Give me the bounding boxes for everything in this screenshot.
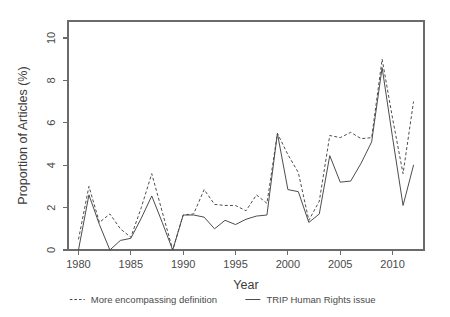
x-axis-tick-label: 1980 <box>66 258 90 270</box>
y-axis-tick-label: 0 <box>45 247 57 253</box>
x-axis-tick-label: 1985 <box>119 258 143 270</box>
y-axis-title: Proportion of Articles (%) <box>16 66 30 204</box>
chart-figure: 02468101980198519901995200020052010YearP… <box>0 0 450 317</box>
x-axis-tick-label: 2010 <box>380 258 404 270</box>
y-axis-tick-label: 8 <box>45 77 57 83</box>
y-axis-tick-label: 6 <box>45 120 57 126</box>
x-axis-tick-label: 1990 <box>171 258 195 270</box>
x-axis-title: Year <box>233 278 258 292</box>
series-line-dashed <box>78 59 413 250</box>
legend-label: More encompassing definition <box>91 294 217 305</box>
x-axis-tick-label: 1995 <box>223 258 247 270</box>
plot-frame <box>68 21 424 250</box>
line-chart: 02468101980198519901995200020052010YearP… <box>0 0 450 317</box>
series-line-solid <box>78 68 413 250</box>
y-axis-tick-label: 4 <box>45 162 57 168</box>
x-axis-tick-label: 2000 <box>276 258 300 270</box>
x-axis-tick-label: 2005 <box>328 258 352 270</box>
legend-label: TRIP Human Rights issue <box>266 294 375 305</box>
y-axis-tick-label: 2 <box>45 205 57 211</box>
y-axis-tick-label: 10 <box>45 32 57 44</box>
